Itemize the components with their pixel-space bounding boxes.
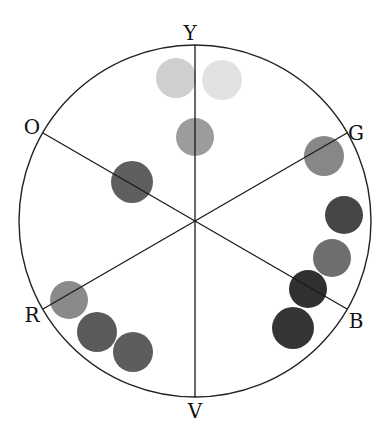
color-swatch: [289, 270, 327, 308]
color-swatch: [113, 332, 153, 372]
color-swatch: [111, 161, 153, 203]
label-g: G: [348, 121, 364, 145]
color-swatch: [313, 239, 351, 277]
color-swatch: [202, 60, 242, 100]
color-swatch: [272, 307, 314, 349]
color-wheel: YGBVRO: [0, 0, 387, 429]
label-y: Y: [182, 21, 197, 45]
color-swatch: [304, 136, 344, 176]
label-o: O: [24, 115, 40, 139]
color-swatch: [77, 312, 117, 352]
label-b: B: [349, 309, 364, 333]
color-wheel-diagram: YGBVRO: [0, 0, 387, 429]
label-r: R: [24, 303, 40, 327]
color-swatch: [325, 196, 363, 234]
color-swatch: [156, 58, 196, 98]
label-v: V: [187, 399, 203, 423]
